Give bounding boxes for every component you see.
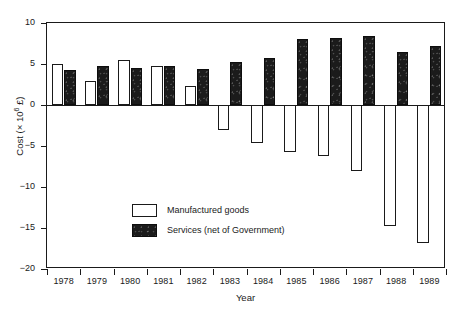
y-axis-title-exponent: 6 (13, 108, 20, 112)
bar-manufactured-goods-1978 (52, 64, 64, 105)
x-axis-tick-9 (346, 269, 347, 275)
x-axis-label-1986: 1986 (313, 276, 346, 286)
bar-services-1986 (330, 38, 342, 105)
bar-manufactured-goods-1988 (384, 105, 396, 226)
bar-services-1982 (197, 69, 209, 105)
legend-swatch-manufactured-goods (132, 204, 157, 217)
legend-label-services: Services (net of Government) (167, 225, 285, 235)
bar-manufactured-goods-1989 (417, 105, 429, 243)
x-axis-label-1989: 1989 (413, 276, 446, 286)
x-axis-tick-4 (180, 269, 181, 275)
x-axis-tick-3 (147, 269, 148, 275)
x-axis-label-1979: 1979 (80, 276, 113, 286)
x-axis-label-1980: 1980 (114, 276, 147, 286)
x-axis-title: Year (46, 292, 445, 303)
bar-services-1980 (131, 68, 143, 105)
x-axis-tick-8 (313, 269, 314, 275)
x-axis-label-1981: 1981 (147, 276, 180, 286)
x-axis-label-1987: 1987 (346, 276, 379, 286)
y-axis-title: Cost (× 106 £) (13, 51, 25, 201)
y-axis-label--5: −5 (25, 141, 35, 150)
bar-manufactured-goods-1981 (151, 66, 163, 105)
x-axis-tick-7 (280, 269, 281, 275)
x-axis-tick-12 (446, 269, 447, 275)
bar-manufactured-goods-1982 (185, 86, 197, 105)
x-axis-tick-1 (80, 269, 81, 275)
bar-manufactured-goods-1987 (351, 105, 363, 171)
bar-services-1979 (97, 66, 109, 105)
bar-chart: Cost (× 106 £) 1050−5−10−15−20 197819791… (0, 0, 455, 321)
x-axis-tick-0 (47, 269, 48, 275)
x-axis-tick-5 (213, 269, 214, 275)
legend-item-services: Services (net of Government) (132, 223, 285, 237)
x-axis-label-1983: 1983 (213, 276, 246, 286)
x-axis-label-1978: 1978 (47, 276, 80, 286)
bar-manufactured-goods-1986 (318, 105, 330, 156)
y-axis-tick-0 (41, 105, 47, 106)
bar-services-1981 (164, 66, 176, 105)
y-axis-label-10: 10 (25, 18, 35, 27)
x-axis-tick-2 (114, 269, 115, 275)
bar-manufactured-goods-1979 (85, 81, 97, 105)
y-axis-tick-10 (41, 23, 47, 24)
bar-manufactured-goods-1985 (284, 105, 296, 152)
bar-services-1983 (230, 62, 242, 105)
bar-services-1989 (430, 46, 442, 105)
bar-manufactured-goods-1984 (251, 105, 263, 143)
x-axis-label-1982: 1982 (180, 276, 213, 286)
x-axis-tick-6 (247, 269, 248, 275)
x-axis-tick-11 (413, 269, 414, 275)
legend: Manufactured goods Services (net of Gove… (132, 203, 285, 243)
y-axis-label--10: −10 (20, 182, 35, 191)
x-axis-label-1985: 1985 (280, 276, 313, 286)
y-axis-title-prefix: Cost (× 10 (14, 112, 25, 156)
y-axis-label-5: 5 (30, 59, 35, 68)
y-axis-tick--15 (41, 228, 47, 229)
bar-services-1984 (264, 58, 276, 105)
legend-swatch-services (132, 224, 157, 237)
bar-services-1987 (363, 36, 375, 105)
bar-services-1978 (64, 70, 76, 105)
plot-area: 1050−5−10−15−20 197819791980198119821983… (46, 22, 445, 268)
bar-manufactured-goods-1980 (118, 60, 130, 105)
x-axis-tick-10 (380, 269, 381, 275)
y-axis-label--20: −20 (20, 264, 35, 273)
bar-services-1985 (297, 39, 309, 105)
y-axis-tick--10 (41, 187, 47, 188)
bar-manufactured-goods-1983 (218, 105, 230, 130)
bar-services-1988 (397, 52, 409, 105)
legend-item-manufactured-goods: Manufactured goods (132, 203, 285, 217)
y-axis-tick--5 (41, 146, 47, 147)
y-axis-label--15: −15 (20, 223, 35, 232)
y-axis-label-0: 0 (30, 100, 35, 109)
y-axis-tick-5 (41, 64, 47, 65)
x-axis-label-1984: 1984 (247, 276, 280, 286)
x-axis-label-1988: 1988 (380, 276, 413, 286)
y-axis-title-suffix: £) (14, 97, 25, 108)
legend-label-manufactured-goods: Manufactured goods (167, 205, 249, 215)
